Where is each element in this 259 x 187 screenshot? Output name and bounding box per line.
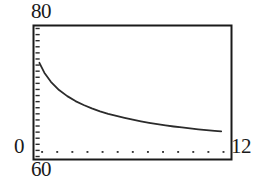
- y-axis-max-label: 80: [31, 1, 51, 22]
- decay-curve-graph: 80 0 60 12: [0, 0, 259, 187]
- y-axis-zero-label: 0: [14, 136, 24, 157]
- x-axis-secondary-min-label: 60: [31, 159, 51, 180]
- x-axis-max-label: 12: [231, 136, 251, 157]
